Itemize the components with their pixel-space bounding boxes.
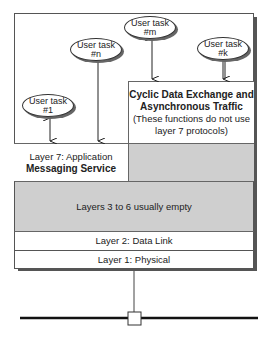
user-task-k-id: #k [218, 49, 228, 58]
user-task-1: User task #1 [22, 94, 74, 117]
user-task-n: User task #n [70, 38, 122, 61]
user-task-1-id: #1 [43, 106, 53, 115]
user-task-n-id: #n [91, 50, 101, 59]
user-task-k: User task #k [197, 37, 249, 60]
user-task-m: User task #m [124, 16, 176, 39]
user-task-m-id: #m [144, 28, 157, 37]
